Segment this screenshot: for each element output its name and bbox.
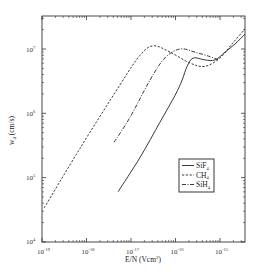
y-tick-label: 107 <box>26 45 36 54</box>
x-tick-label: 10-19 <box>37 247 51 256</box>
data-series <box>44 29 245 208</box>
drift-velocity-chart: 10-1910-1810-1710-1610-15 104105106107 E… <box>0 0 258 278</box>
y-tick-label: 105 <box>26 173 36 182</box>
y-axis-ticks: 104105106107 <box>26 18 245 246</box>
series-line-sih4 <box>114 49 218 142</box>
legend: SiF4CH4SiH4 <box>179 159 214 192</box>
x-tick-label: 10-18 <box>82 247 96 256</box>
x-axis-ticks: 10-1910-1810-1710-1610-15 <box>37 16 241 256</box>
plot-frame <box>42 16 245 242</box>
y-tick-label: 106 <box>26 109 36 118</box>
x-tick-label: 10-15 <box>215 247 229 256</box>
x-tick-label: 10-16 <box>171 247 185 256</box>
y-axis-title: wd (cm/s) <box>7 116 17 145</box>
y-tick-label: 104 <box>26 237 36 246</box>
series-line-ch4 <box>44 29 245 208</box>
x-axis-title: E/N (Vcm2) <box>125 255 162 264</box>
